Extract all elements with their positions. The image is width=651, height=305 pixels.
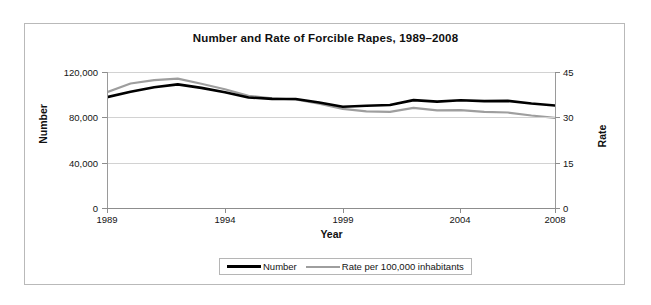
y-axis-left [107,72,108,209]
gridline-40000 [107,163,555,164]
tick-left-40000 [102,163,107,164]
plot-area [107,72,555,208]
tick-x-1999 [343,208,344,213]
legend-label-rate: Rate per 100,000 inhabitants [342,261,464,272]
legend-label-number: Number [263,261,297,272]
legend-swatch-rate [306,266,340,268]
legend-swatch-number [227,265,261,268]
y-axis-right-title: Rate [596,81,608,191]
legend-entry-rate: Rate per 100,000 inhabitants [306,261,464,272]
y-label-right-15: 15 [563,158,593,169]
x-axis [107,208,556,209]
x-label-1999: 1999 [313,214,373,225]
series-lines [107,72,555,208]
x-label-2008: 2008 [525,214,585,225]
tick-x-2004 [460,208,461,213]
y-axis-right [555,72,556,209]
gridline-80000 [107,117,555,118]
y-label-left-0: 0 [28,203,98,214]
tick-x-1989 [107,208,108,213]
chart-legend: Number Rate per 100,000 inhabitants [219,258,472,275]
y-label-right-0: 0 [563,203,593,214]
x-label-1994: 1994 [195,214,255,225]
tick-x-2008 [555,208,556,213]
x-axis-title: Year [107,228,556,240]
y-label-right-45: 45 [563,67,593,78]
y-axis-left-title: Number [37,69,49,179]
y-label-right-30: 30 [563,112,593,123]
tick-left-80000 [102,117,107,118]
tick-left-120000 [102,72,107,73]
x-label-1989: 1989 [77,214,137,225]
legend-entry-number: Number [227,261,297,272]
chart-title: Number and Rate of Forcible Rapes, 1989–… [0,32,651,44]
line-number [107,84,555,106]
x-label-2004: 2004 [430,214,490,225]
tick-x-1994 [225,208,226,213]
tick-right-30 [555,117,560,118]
tick-right-45 [555,72,560,73]
tick-right-15 [555,163,560,164]
chart-figure: Number and Rate of Forcible Rapes, 1989–… [0,0,651,305]
gridline-120000 [107,72,555,73]
